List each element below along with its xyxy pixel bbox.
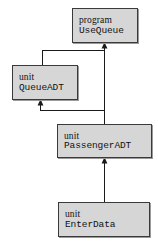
node-unit-queueadt[interactable]: unit QueueADT xyxy=(12,65,78,100)
edge-passengeradt-to-queueadt xyxy=(41,103,105,124)
node-usequeue-line2: UseQueue xyxy=(79,26,124,36)
node-unit-passengeradt[interactable]: unit PassengerADT xyxy=(57,124,152,158)
node-program-usequeue[interactable]: program UseQueue xyxy=(72,8,138,43)
node-usequeue-line1: program xyxy=(79,15,112,25)
node-unit-enterdata[interactable]: unit EnterData xyxy=(58,202,150,237)
node-enterdata-line1: unit xyxy=(65,209,80,219)
node-enterdata-line2: EnterData xyxy=(65,220,115,230)
dependency-diagram: program UseQueue unit QueueADT unit Pass… xyxy=(0,0,158,247)
node-queueadt-line1: unit xyxy=(19,72,34,82)
node-queueadt-line2: QueueADT xyxy=(19,83,64,93)
node-passengeradt-line2: PassengerADT xyxy=(64,141,131,151)
edge-queueadt-to-usequeue xyxy=(43,51,105,66)
